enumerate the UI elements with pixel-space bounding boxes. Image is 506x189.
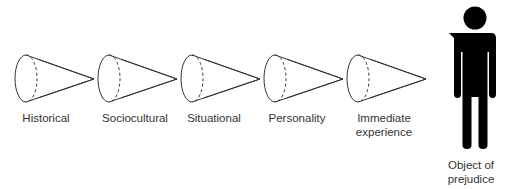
label-immediate-line1: Immediate bbox=[348, 111, 420, 125]
label-immediate-experience: Immediate experience bbox=[348, 111, 420, 139]
label-situational: Situational bbox=[179, 111, 249, 125]
label-personality: Personality bbox=[262, 111, 332, 125]
label-object-line2: prejudice bbox=[438, 172, 504, 186]
label-historical: Historical bbox=[16, 111, 76, 125]
prejudice-levels-diagram bbox=[0, 0, 506, 189]
label-object-of-prejudice: Object of prejudice bbox=[438, 158, 504, 186]
label-immediate-line2: experience bbox=[348, 125, 420, 139]
cone-hidden-edges bbox=[26, 54, 370, 103]
person-icon bbox=[449, 7, 496, 150]
label-object-line1: Object of bbox=[438, 158, 504, 172]
label-sociocultural: Sociocultural bbox=[95, 111, 175, 125]
